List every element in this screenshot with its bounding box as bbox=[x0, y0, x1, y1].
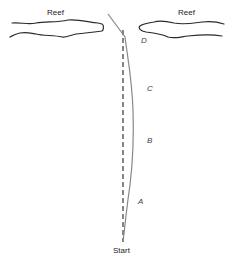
point-b-label: B bbox=[147, 136, 152, 145]
reef-left-outline bbox=[10, 20, 104, 37]
reef-navigation-diagram bbox=[0, 0, 235, 263]
reef-left-label: Reef bbox=[47, 8, 64, 17]
point-a-label: A bbox=[138, 197, 143, 206]
reef-right-label: Reef bbox=[178, 8, 195, 17]
actual-path-solid bbox=[108, 14, 133, 242]
point-c-label: C bbox=[147, 84, 153, 93]
point-d-label: D bbox=[141, 36, 147, 45]
start-label: Start bbox=[113, 246, 130, 255]
reef-right-outline bbox=[139, 21, 224, 38]
